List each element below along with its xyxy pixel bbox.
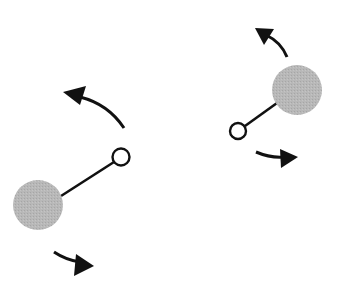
left-small-sphere — [113, 149, 130, 166]
left-large-sphere — [13, 180, 63, 230]
diagram-canvas — [0, 0, 342, 294]
right-molecule — [230, 28, 322, 168]
right-rod — [245, 103, 277, 126]
right-large-sphere — [272, 65, 322, 115]
left-rod — [61, 162, 114, 196]
left-molecule — [13, 86, 130, 276]
right-upper-rotation-arrow-icon — [255, 28, 287, 57]
right-lower-rotation-arrow-icon — [256, 149, 298, 168]
left-lower-rotation-arrow-icon — [54, 252, 94, 276]
right-small-sphere — [230, 123, 246, 139]
left-upper-rotation-arrow-icon — [63, 86, 124, 128]
